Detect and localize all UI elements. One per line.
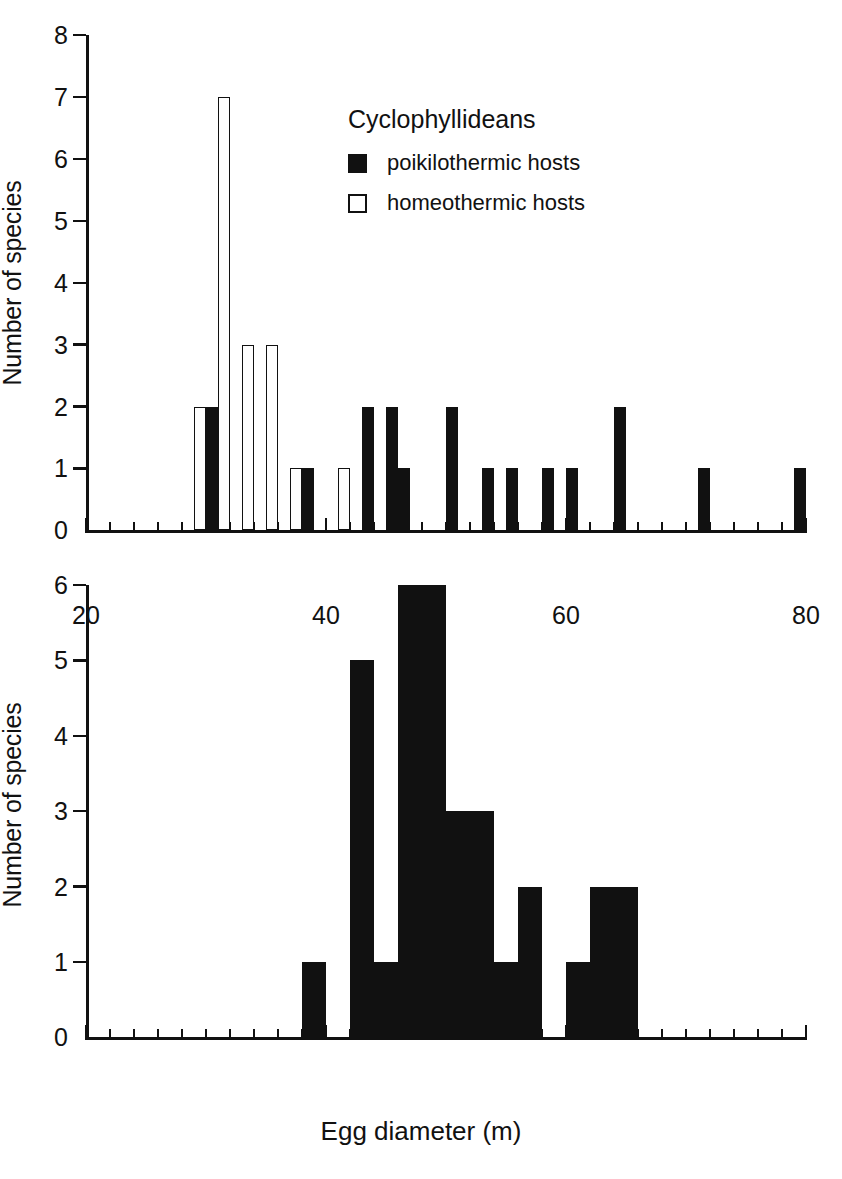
y-tick-label: 4 <box>26 271 68 296</box>
y-tick <box>73 220 86 222</box>
bar <box>422 585 446 1037</box>
x-tick-minor <box>421 522 423 533</box>
bar <box>470 811 494 1037</box>
y-tick-label: 5 <box>26 209 68 234</box>
x-tick-minor <box>109 522 111 533</box>
x-tick-label: 60 <box>552 601 580 630</box>
x-tick-label: 40 <box>312 601 340 630</box>
x-tick-minor <box>109 1029 111 1040</box>
x-tick-minor <box>157 1029 159 1040</box>
y-tick-label: 4 <box>26 724 68 749</box>
x-tick-minor <box>133 1029 135 1040</box>
y-tick-label: 2 <box>26 395 68 420</box>
x-tick-minor <box>469 522 471 533</box>
y-tick-label: 3 <box>26 333 68 358</box>
bar <box>542 468 554 530</box>
bar <box>302 468 314 530</box>
y-tick-label: 3 <box>26 799 68 824</box>
y-tick-label: 6 <box>26 573 68 598</box>
y-tick <box>73 158 86 160</box>
legend-title-top: Cyclophyllideans <box>348 105 585 134</box>
x-tick-major <box>85 518 87 533</box>
bar <box>446 407 458 531</box>
x-tick-minor <box>205 1029 207 1040</box>
y-tick <box>73 467 86 469</box>
x-tick-label: 80 <box>792 601 820 630</box>
y-tick-label: 2 <box>26 875 68 900</box>
y-tick-label: 6 <box>26 147 68 172</box>
x-tick-major <box>805 1025 807 1040</box>
x-tick-minor <box>709 1029 711 1040</box>
bar <box>494 962 518 1037</box>
bar <box>362 407 374 531</box>
bar <box>194 407 206 531</box>
x-tick-major <box>85 1025 87 1040</box>
y-axis-line-top <box>86 35 89 533</box>
bar <box>290 468 302 530</box>
figure-egg-diameter-histograms: Number of species 012345678 Cyclophyllid… <box>0 0 842 1179</box>
legend-swatch-filled-icon <box>348 154 367 173</box>
legend-label-homeothermic-top: homeothermic hosts <box>387 190 585 216</box>
y-tick <box>73 343 86 345</box>
y-tick-label: 1 <box>26 456 68 481</box>
panel-pseudophyllideans: Number of species 0123456 20406080 Pseud… <box>0 545 842 1105</box>
bar <box>566 468 578 530</box>
bar <box>482 468 494 530</box>
x-tick-minor <box>637 522 639 533</box>
bar <box>446 811 470 1037</box>
y-tick-label: 5 <box>26 648 68 673</box>
x-tick-label: 20 <box>72 601 100 630</box>
y-tick <box>73 584 86 586</box>
bar <box>698 468 710 530</box>
bar <box>614 407 626 531</box>
x-tick-major <box>325 518 327 533</box>
legend-label-poikilothermic-top: poikilothermic hosts <box>387 150 580 176</box>
legend-item-poikilothermic-top: poikilothermic hosts <box>348 150 585 176</box>
legend-item-homeothermic-top: homeothermic hosts <box>348 190 585 216</box>
bar <box>398 468 410 530</box>
bar <box>374 962 398 1037</box>
bar <box>206 407 218 531</box>
x-tick-minor <box>181 522 183 533</box>
bar <box>242 345 254 531</box>
bar <box>338 468 350 530</box>
y-tick <box>73 810 86 812</box>
x-tick-minor <box>757 1029 759 1040</box>
bar <box>590 887 614 1038</box>
bar <box>614 887 638 1038</box>
y-tick <box>73 282 86 284</box>
y-tick-label: 0 <box>26 1025 68 1050</box>
y-tick-label: 1 <box>26 950 68 975</box>
x-tick-minor <box>253 1029 255 1040</box>
y-tick <box>73 735 86 737</box>
bar <box>518 887 542 1038</box>
bar <box>302 962 326 1037</box>
y-tick <box>73 885 86 887</box>
y-axis-label-top: Number of species <box>0 33 27 533</box>
x-tick-minor <box>661 522 663 533</box>
y-axis-line-bottom <box>86 585 89 1040</box>
x-tick-minor <box>733 522 735 533</box>
y-tick-label: 7 <box>26 85 68 110</box>
x-tick-minor <box>229 1029 231 1040</box>
y-tick-label: 0 <box>26 518 68 543</box>
y-tick <box>73 405 86 407</box>
y-tick <box>73 659 86 661</box>
bar <box>350 660 374 1037</box>
x-tick-minor <box>685 522 687 533</box>
x-tick-minor <box>661 1029 663 1040</box>
y-tick <box>73 34 86 36</box>
bar <box>566 962 590 1037</box>
panel-cyclophyllideans: Number of species 012345678 Cyclophyllid… <box>0 0 842 560</box>
x-tick-minor <box>781 522 783 533</box>
x-tick-minor <box>757 522 759 533</box>
bar <box>266 345 278 531</box>
x-tick-minor <box>733 1029 735 1040</box>
y-tick <box>73 961 86 963</box>
x-tick-minor <box>589 522 591 533</box>
x-tick-minor <box>157 522 159 533</box>
legend-top: Cyclophyllideans poikilothermic hosts ho… <box>348 105 585 216</box>
x-tick-minor <box>685 1029 687 1040</box>
x-axis-label: Egg diameter (m) <box>0 1116 842 1147</box>
y-axis-label-bottom: Number of species <box>0 555 27 1055</box>
